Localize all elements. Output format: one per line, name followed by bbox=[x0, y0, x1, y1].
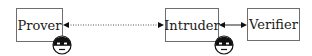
icons-layer bbox=[0, 0, 312, 56]
masked-face-icon bbox=[215, 36, 233, 54]
masked-face-icon bbox=[53, 36, 71, 54]
